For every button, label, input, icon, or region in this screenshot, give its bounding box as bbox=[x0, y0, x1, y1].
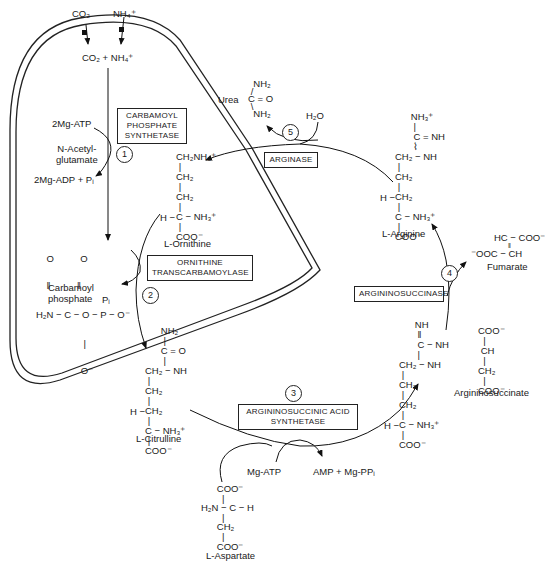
arginine-structure: NH₃⁺ | C = NH ⌇ CH₂ − NH | CH₂ | CH₂ | C… bbox=[395, 112, 445, 242]
urea-label: Urea bbox=[218, 94, 239, 105]
argininosuccinase-box: ARGININOSUCCINASE bbox=[354, 286, 444, 302]
argininosuccinate-right-structure: COO⁻ | CH | CH₂ | COO⁻ bbox=[478, 326, 505, 396]
carbamoyl-phosphate-name: Carbamoylphosphate bbox=[48, 282, 94, 304]
citrulline-name: L-Citrulline bbox=[136, 433, 181, 444]
mg-atp-label: 2Mg-ATP bbox=[52, 118, 91, 129]
step-5-marker: 5 bbox=[282, 124, 299, 141]
citrulline-h-prefix: H − bbox=[130, 406, 145, 417]
aspartate-name: L-Aspartate bbox=[206, 550, 255, 561]
co2-nh4-combined-label: CO₂ + NH₄⁺ bbox=[82, 52, 133, 63]
argininosuccinate-h-prefix: H − bbox=[384, 420, 399, 431]
carbamoyl-phosphate-synthetase-box: CARBAMOYL PHOSPHATE SYNTHETASE bbox=[117, 108, 187, 144]
fumarate-bottom: ⁻OOC − CH bbox=[471, 248, 522, 259]
step-2-marker: 2 bbox=[142, 287, 159, 304]
step-3-marker: 3 bbox=[285, 385, 302, 402]
argininosuccinate-left-structure: NH ‖ C − NH | CH₂ − NH | CH₂ | CH₂ | C −… bbox=[399, 320, 449, 450]
ornithine-structure: CH₂NH₃⁺ | CH₂ | CH₂ | C − NH₃⁺ | COO⁻ bbox=[176, 152, 216, 242]
argininosuccinate-name: Argininosuccinate bbox=[454, 387, 529, 398]
co2-label: CO₂ bbox=[72, 8, 90, 19]
pi-byproduct-label: Pᵢ bbox=[102, 294, 110, 305]
fumarate-top: HC − COO⁻ bbox=[494, 232, 545, 243]
arginase-box: ARGINASE bbox=[264, 152, 318, 168]
nh4-label: NH₄⁺ bbox=[113, 8, 136, 19]
amp-ppi-label: AMP + Mg-PPᵢ bbox=[313, 466, 375, 477]
step-1-marker: 1 bbox=[116, 146, 133, 163]
ornithine-transcarbamoylase-box: ORNITHINE TRANSCARBAMOYLASE bbox=[147, 255, 253, 281]
ornithine-name: L-Ornithine bbox=[164, 238, 211, 249]
arginine-name: L-Arginine bbox=[382, 228, 425, 239]
n-acetylglutamate-label: N-Acetyl-glutamate bbox=[56, 143, 98, 165]
fumarate-name: Fumarate bbox=[487, 261, 528, 272]
mg-atp-step3-label: Mg-ATP bbox=[247, 466, 281, 477]
water-label: H₂O bbox=[306, 110, 324, 121]
mg-adp-label: 2Mg-ADP + Pᵢ bbox=[34, 174, 94, 185]
step-4-marker: 4 bbox=[441, 265, 458, 282]
urea-cycle-diagram: CO₂ NH₄⁺ CO₂ + NH₄⁺ CARBAMOYL PHOSPHATE … bbox=[0, 0, 552, 566]
urea-structure: NH₂ / C = O \ NH₂ bbox=[248, 80, 273, 118]
carbamoyl-phosphate-structure: O O ‖ ‖ H₂N − C − O − P − O⁻ | O⁻ bbox=[36, 236, 130, 393]
ornithine-h-prefix: H − bbox=[160, 212, 175, 223]
argininosuccinic-acid-synthetase-box: ARGININOSUCCINIC ACID SYNTHETASE bbox=[238, 404, 358, 430]
aspartate-structure: COO⁻ | H₂N − C − H | CH₂ | COO⁻ bbox=[201, 484, 254, 551]
arginine-h-prefix: H − bbox=[380, 192, 395, 203]
